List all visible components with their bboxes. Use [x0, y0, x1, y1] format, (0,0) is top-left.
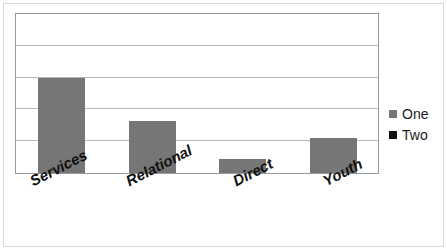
bar-group — [16, 14, 107, 173]
bar-group — [288, 14, 379, 173]
plot-area — [15, 13, 379, 174]
legend-label: Two — [402, 128, 428, 142]
bar-group — [197, 14, 288, 173]
chart-frame: ServicesRelationalDirectYouth OneTwo — [3, 3, 444, 247]
x-axis-labels: ServicesRelationalDirectYouth — [15, 174, 379, 236]
bars-layer — [16, 14, 378, 173]
legend-item[interactable]: Two — [389, 124, 444, 145]
legend-item[interactable]: One — [389, 103, 444, 124]
chart-legend: OneTwo — [389, 103, 444, 145]
legend-label: One — [402, 107, 428, 121]
legend-swatch-icon — [389, 110, 397, 118]
legend-swatch-icon — [389, 131, 397, 139]
